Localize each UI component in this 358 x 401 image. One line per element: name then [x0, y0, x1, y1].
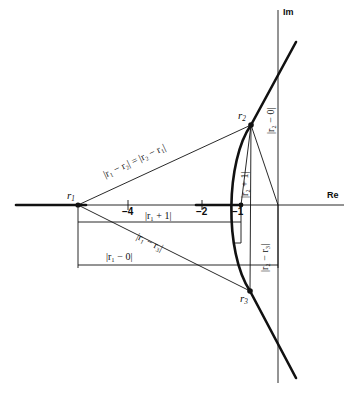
asymptote-lower — [250, 291, 296, 378]
point-dot-r1 — [75, 202, 80, 207]
point-label-r2: r2 — [238, 110, 246, 123]
tick-label-minus-4: −4 — [122, 207, 133, 217]
point-label-r3: r3 — [240, 293, 248, 306]
figure-canvas: Im Re −4 −2 −1 r1 r2 r3 |r₁ − r₂| = |r₂ … — [0, 0, 358, 401]
measure-label-r2-minus-0: |r₂ − 0| — [266, 108, 276, 134]
segment-r1-r2 — [78, 125, 251, 205]
measure-label-r2-plus-1: |r₂ + 1| — [240, 172, 250, 198]
imag-axis-label: Im — [283, 8, 294, 17]
segment-r2-origin — [251, 125, 278, 205]
point-label-r1: r1 — [67, 190, 75, 203]
measure-label-r1-minus-0: |r₁ − 0| — [106, 252, 132, 262]
point-dot-r3 — [247, 288, 253, 294]
measure-label-r1-plus-1: |r₁ + 1| — [145, 211, 171, 221]
real-axis-label: Re — [327, 191, 339, 200]
tick-label-minus-2: −2 — [196, 207, 207, 217]
point-label-r2-sub: 2 — [242, 115, 246, 123]
point-label-r3-sub: 3 — [244, 298, 248, 306]
segment-r2-r3 — [250, 125, 251, 291]
point-label-r1-sub: 1 — [71, 195, 75, 203]
tick-label-minus-1: −1 — [232, 207, 243, 217]
point-dot-r2 — [248, 122, 254, 128]
measure-label-r2-minus-r3: |r₂ − r₃| — [260, 244, 270, 272]
diagram-svg — [0, 0, 358, 401]
